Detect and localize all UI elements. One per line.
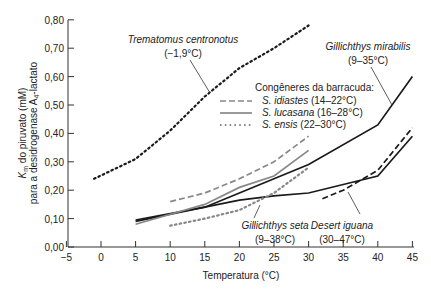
x-tick-label: 25 — [268, 252, 280, 263]
legend: Congêneres da barracuda:S. idiastes (14–… — [220, 82, 374, 130]
annotation-range: (9–35°C) — [348, 55, 388, 66]
series-line — [170, 136, 308, 201]
x-tick-label: 0 — [98, 252, 104, 263]
y-tick-label: 0,30 — [45, 157, 65, 168]
x-tick-label: 35 — [338, 252, 350, 263]
annotation-range: (30–47°C) — [319, 234, 365, 245]
x-tick-label: 5 — [133, 252, 139, 263]
annotation-leader — [371, 67, 392, 105]
series-line — [322, 128, 412, 199]
annotation-range: (−1,9°C) — [164, 48, 202, 59]
x-tick-label: 20 — [234, 252, 246, 263]
annotation-label: Gillichthys mirabilis — [325, 41, 410, 52]
annotation-leader — [190, 60, 210, 93]
legend-entry: S. ensis (22–30°C) — [262, 119, 346, 130]
y-tick-label: 0,20 — [45, 185, 65, 196]
legend-title: Congêneres da barracuda: — [255, 82, 374, 93]
chart: 0,000,100,200,300,400,500,600,700,80−505… — [0, 0, 431, 291]
y-tick-label: 0,60 — [45, 72, 65, 83]
x-tick-label: 40 — [372, 252, 384, 263]
annotation-label: Trematomus centronotus — [128, 34, 238, 45]
annotation-leader — [254, 205, 260, 218]
y-tick-label: 0,80 — [45, 15, 65, 26]
x-tick-label: 30 — [303, 252, 315, 263]
x-tick-label: 15 — [199, 252, 211, 263]
annotation-range: (9–38°C) — [255, 234, 295, 245]
legend-entry: S. idiastes (14–22°C) — [262, 95, 357, 106]
y-tick-label: 0,10 — [45, 214, 65, 225]
y-tick-label: 0,70 — [45, 43, 65, 54]
x-tick-label: −5 — [61, 252, 73, 263]
annotation-label: Gillichthys seta — [241, 220, 309, 231]
y-tick-label: 0,40 — [45, 128, 65, 139]
x-tick-label: 10 — [165, 252, 177, 263]
annotation-leader — [348, 192, 360, 214]
y-tick-label: 0,50 — [45, 100, 65, 111]
x-axis-label: Temperatura (°C) — [203, 270, 280, 281]
x-tick-label: 45 — [407, 252, 419, 263]
y-axis-label-line2: para a desidrogenase A4-lactato — [28, 61, 40, 204]
annotation-label: Desert iguana — [311, 220, 374, 231]
legend-entry: S. lucasana (16–28°C) — [262, 107, 363, 118]
